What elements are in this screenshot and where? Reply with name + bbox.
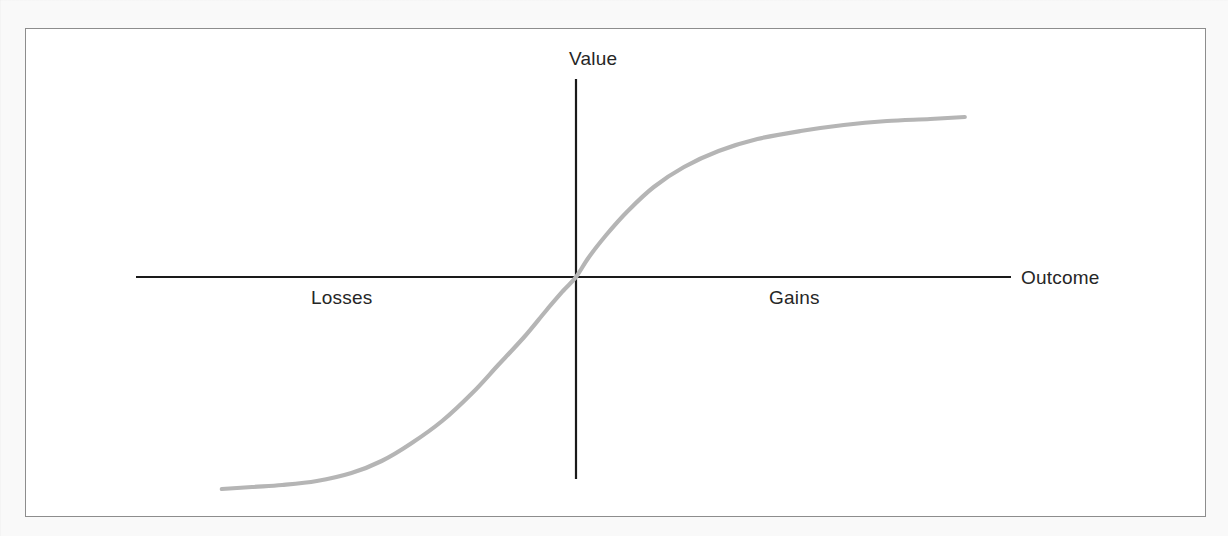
gains-region-label: Gains xyxy=(769,288,820,307)
figure-root: Value Outcome Losses Gains xyxy=(0,0,1228,536)
y-axis-label: Value xyxy=(569,49,617,68)
x-axis-label: Outcome xyxy=(1021,268,1100,287)
figure-frame: Value Outcome Losses Gains xyxy=(25,28,1206,517)
losses-region-label: Losses xyxy=(311,288,372,307)
plot-area: Value Outcome Losses Gains xyxy=(26,29,1205,516)
